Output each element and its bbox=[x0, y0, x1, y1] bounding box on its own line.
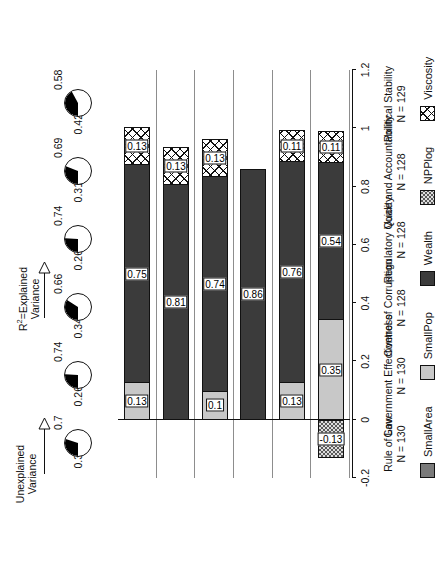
segment-value-label: 0.11 bbox=[281, 140, 304, 153]
pie-wedge bbox=[65, 294, 91, 320]
axis-tick-label: 0.6 bbox=[359, 225, 371, 265]
unexplained-variance-label-line1: Unexplained bbox=[14, 414, 26, 534]
bar-segment-viscosity[interactable]: 0.13 bbox=[124, 127, 150, 165]
category-separator bbox=[310, 70, 311, 478]
segment-value-label: 0.81 bbox=[164, 295, 187, 308]
variance-pie-government-effectiveness bbox=[64, 361, 92, 389]
axis-tick bbox=[352, 127, 356, 128]
explained-variance-label-line2: Variance bbox=[29, 224, 41, 374]
explained-arrow-head bbox=[38, 261, 51, 274]
bar-segment-smallpop[interactable]: 0.13 bbox=[279, 382, 305, 420]
pie-wedge bbox=[65, 226, 91, 252]
unexplained-variance-value: 0.34 bbox=[72, 318, 84, 350]
bar-segment-viscosity[interactable]: 0.13 bbox=[202, 139, 228, 177]
unexplained-variance-value: 0.26 bbox=[72, 386, 84, 418]
bar-segment-smallpop[interactable]: 0.13 bbox=[124, 382, 150, 420]
axis-tick-label: 0 bbox=[359, 400, 371, 440]
legend-item-viscosity[interactable]: Viscosity bbox=[420, 57, 435, 121]
variance-pie-political-stability bbox=[64, 89, 92, 117]
segment-value-label: 0.54 bbox=[319, 235, 342, 248]
segment-value-label: 0.13 bbox=[126, 140, 149, 153]
bar-segment-npplog[interactable]: -0.13 bbox=[318, 420, 344, 458]
axis-tick-label: 0.8 bbox=[359, 167, 371, 207]
segment-value-label: 0.13 bbox=[164, 159, 187, 172]
axis-tick-label: 0.4 bbox=[359, 283, 371, 323]
unexplained-variance-value: 0.26 bbox=[72, 250, 84, 282]
axis-line bbox=[352, 70, 353, 478]
legend-label: Wealth bbox=[422, 231, 434, 265]
bar-segment-wealth[interactable]: 0.76 bbox=[279, 161, 305, 382]
bar-rule-of-law[interactable]: 0.130.750.13 bbox=[124, 127, 150, 419]
explained-variance-value: 0.74 bbox=[52, 192, 64, 226]
category-labels: Rule of LawN = 130Government Effectivene… bbox=[382, 0, 418, 570]
segment-value-label: 0.74 bbox=[203, 277, 226, 290]
bar-segment-viscosity[interactable]: 0.11 bbox=[279, 130, 305, 162]
explained-variance-value: 0.66 bbox=[52, 260, 64, 294]
explained-variance-value: 0.7 bbox=[52, 396, 64, 430]
segment-value-label: 0.1 bbox=[206, 399, 224, 412]
bar-segment-wealth[interactable]: 0.54 bbox=[318, 162, 344, 319]
pie-wedge bbox=[65, 90, 91, 116]
axis-tick bbox=[352, 302, 356, 303]
bar-political-stability[interactable]: -0.130.350.540.11 bbox=[318, 131, 344, 457]
bar-segment-viscosity[interactable]: 0.11 bbox=[318, 131, 344, 163]
legend-swatch-smallpop bbox=[420, 365, 435, 380]
bar-government-effectiveness[interactable]: 0.810.13 bbox=[163, 147, 189, 420]
bar-voice-and-accountability[interactable]: 0.130.760.11 bbox=[279, 130, 305, 419]
bar-segment-smallpop[interactable]: 0.1 bbox=[202, 391, 228, 420]
axis-tick-label: 0.2 bbox=[359, 341, 371, 381]
legend-item-smallarea[interactable]: SmallArea bbox=[420, 406, 435, 478]
explained-variance-value: 0.58 bbox=[52, 56, 64, 90]
legend-swatch-viscosity bbox=[420, 106, 435, 121]
pie-wedge bbox=[65, 430, 91, 456]
axis-tick bbox=[352, 244, 356, 245]
legend-item-smallpop[interactable]: SmallPop bbox=[420, 312, 435, 380]
explained-variance-annotation: R2=Explained Variance bbox=[14, 224, 41, 374]
legend-item-wealth[interactable]: Wealth bbox=[420, 231, 435, 286]
explained-variance-value: 0.69 bbox=[52, 124, 64, 158]
segment-value-label: 0.13 bbox=[126, 394, 149, 407]
legend-label: SmallArea bbox=[422, 406, 434, 457]
bar-segment-wealth[interactable]: 0.74 bbox=[202, 176, 228, 392]
segment-value-label: 0.35 bbox=[319, 363, 342, 376]
legend-label: NPPlog bbox=[422, 147, 434, 184]
legend-swatch-npplog bbox=[420, 190, 435, 205]
axis-tick bbox=[352, 477, 356, 478]
unexplained-variance-value: 0.3 bbox=[72, 454, 84, 486]
category-label-political-stability: Political StabilityN = 129 bbox=[382, 19, 407, 189]
axis-tick bbox=[352, 186, 356, 187]
axis-tick bbox=[352, 360, 356, 361]
category-sample-size: N = 129 bbox=[395, 19, 408, 189]
unexplained-variance-value: 0.42 bbox=[72, 114, 84, 146]
segment-value-label: 0.86 bbox=[242, 288, 265, 301]
unexplained-arrow-shaft bbox=[44, 428, 45, 474]
unexplained-variance-label-line2: Variance bbox=[26, 414, 38, 534]
segment-value-label: 0.13 bbox=[203, 151, 226, 164]
bar-segment-wealth[interactable]: 0.75 bbox=[124, 164, 150, 383]
segment-value-label: -0.13 bbox=[317, 432, 344, 445]
variance-pie-voice-and-accountability bbox=[64, 157, 92, 185]
category-name: Political Stability bbox=[382, 19, 395, 189]
variance-pie-regulatory-quality bbox=[64, 225, 92, 253]
bar-regulatory-quality[interactable]: 0.86 bbox=[240, 169, 266, 420]
segment-value-label: 0.76 bbox=[280, 266, 303, 279]
legend: SmallAreaSmallPopWealthNPPlogViscosity bbox=[420, 31, 435, 478]
bar-segment-smallpop[interactable]: 0.35 bbox=[318, 319, 344, 421]
axis-tick-label: 1 bbox=[359, 108, 371, 148]
variance-pie-control-of-corruption bbox=[64, 293, 92, 321]
category-separator bbox=[194, 70, 195, 478]
plot-area: 0.130.750.130.810.130.10.740.130.860.130… bbox=[118, 0, 350, 570]
pie-wedge bbox=[65, 362, 91, 388]
axis-tick-label: 1.2 bbox=[359, 50, 371, 90]
bar-control-of-corruption[interactable]: 0.10.740.13 bbox=[202, 139, 228, 420]
bar-segment-wealth[interactable]: 0.86 bbox=[240, 169, 266, 420]
bar-segment-wealth[interactable]: 0.81 bbox=[163, 184, 189, 420]
bar-segment-viscosity[interactable]: 0.13 bbox=[163, 147, 189, 185]
axis-tick-label: -0.2 bbox=[359, 458, 371, 498]
unexplained-variance-annotation: Unexplained Variance bbox=[14, 414, 38, 534]
axis-tick bbox=[352, 419, 356, 420]
explained-arrow-shaft bbox=[44, 272, 45, 318]
category-separator bbox=[233, 70, 234, 478]
category-separator bbox=[349, 70, 350, 478]
legend-item-npplog[interactable]: NPPlog bbox=[420, 147, 435, 205]
